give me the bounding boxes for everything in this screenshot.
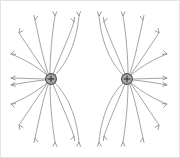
field-arrow-head [11,104,16,108]
field-line [11,80,45,85]
field-line [104,84,125,136]
field-line [11,54,47,75]
field-line [50,16,55,73]
field-arrow-head [34,16,38,21]
field-line [35,85,48,138]
field-arrow-head [121,12,125,16]
electric-field-diagram [0,0,180,158]
field-line [53,22,74,74]
field-arrow-head [98,12,102,16]
field-line [11,83,47,104]
field-arrow-head [140,138,144,143]
field-arrow-head [162,51,167,55]
field-line [99,16,123,75]
field-arrow-head [11,51,16,55]
field-arrow-head [155,28,159,33]
field-arrow-head [53,12,57,16]
right-charge [122,74,133,85]
figure-frame [0,0,180,158]
field-arrow-head [121,142,125,146]
field-line [133,80,167,85]
field-line [131,83,167,104]
field-line [53,84,74,136]
field-arrow-head [71,136,75,141]
field-arrow-head [103,17,107,22]
field-line [104,22,125,74]
field-arrow-head [103,136,107,141]
field-line [130,85,143,138]
field-arrow-head [19,28,23,33]
field-lines-group [11,12,167,147]
charges-group [46,74,133,85]
figure-border [1,1,180,158]
field-arrow-head [19,125,23,130]
field-line [131,54,167,75]
field-line [55,16,79,75]
field-line [130,20,143,73]
field-arrow-head [155,125,159,130]
field-line [123,85,128,142]
field-arrow-head [162,104,167,108]
field-arrow-head [53,142,57,146]
field-line [55,83,79,142]
field-line-canvas [0,0,180,158]
field-arrow-head [34,138,38,143]
field-line [123,16,128,73]
left-charge [46,74,57,85]
field-line [99,83,123,142]
field-arrow-head [140,16,144,21]
field-line [35,20,48,73]
field-arrow-head [98,142,102,146]
field-arrow-head [71,17,75,22]
field-arrow-head [77,142,81,146]
field-line [50,85,55,142]
field-line [11,78,45,79]
field-line [133,78,167,79]
field-arrow-head [77,12,81,16]
